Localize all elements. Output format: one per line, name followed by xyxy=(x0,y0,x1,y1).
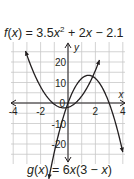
y-tick-label: 10 xyxy=(55,78,67,89)
y-tick-label: -10 xyxy=(52,119,67,130)
y-tick-label: 20 xyxy=(55,57,67,68)
g-equation-label: g(x) = 6x(3 − x) xyxy=(27,163,112,177)
x-tick-label: -2 xyxy=(36,106,45,117)
x-tick-label: -4 xyxy=(9,106,18,117)
x-tick-label: 2 xyxy=(93,106,99,117)
f-equation-label: f(x) = 3.5x2 + 2x − 2.1 xyxy=(4,26,124,40)
x-axis-label: x xyxy=(118,89,125,100)
x-tick-label: 4 xyxy=(120,106,126,117)
y-axis-label: y xyxy=(73,42,80,53)
y-tick-label: -20 xyxy=(52,139,67,150)
